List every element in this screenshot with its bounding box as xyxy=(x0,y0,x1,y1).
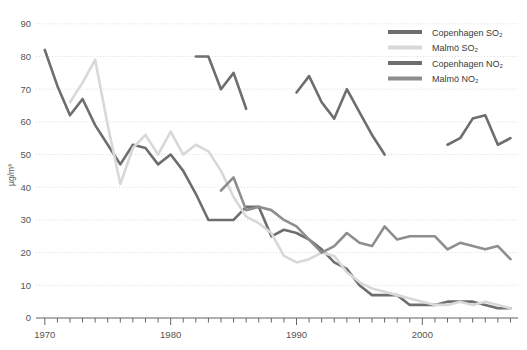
y-tick-label: 60 xyxy=(20,116,31,127)
x-tick-label: 1970 xyxy=(34,329,55,340)
y-tick-label: 0 xyxy=(26,312,31,323)
y-tick-label: 80 xyxy=(20,51,31,62)
y-axis-title: µg/m³ xyxy=(6,164,16,186)
legend-label: Malmö SO₂ xyxy=(432,43,479,53)
y-axis-title-text: µg/m³ xyxy=(6,164,16,186)
y-tick-label: 10 xyxy=(20,280,31,291)
air-quality-line-chart: 0102030405060708090 1970198019902000 µg/… xyxy=(0,0,527,350)
y-tick-label: 50 xyxy=(20,149,31,160)
legend-label: Copenhagen NO₂ xyxy=(432,59,504,69)
y-tick-label: 40 xyxy=(20,182,31,193)
y-tick-label: 70 xyxy=(20,84,31,95)
legend-label: Malmö NO₂ xyxy=(432,74,479,84)
x-tick-label: 1990 xyxy=(286,329,307,340)
x-tick-label: 1980 xyxy=(160,329,181,340)
legend-label: Copenhagen SO₂ xyxy=(432,28,503,38)
x-tick-label: 2000 xyxy=(412,329,433,340)
y-tick-label: 30 xyxy=(20,214,31,225)
y-tick-label: 20 xyxy=(20,247,31,258)
y-tick-label: 90 xyxy=(20,18,31,29)
chart-canvas: 0102030405060708090 1970198019902000 µg/… xyxy=(0,0,527,350)
